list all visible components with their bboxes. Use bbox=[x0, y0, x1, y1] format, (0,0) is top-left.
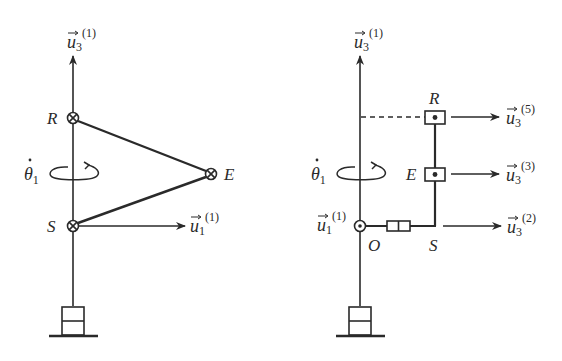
base-icon bbox=[336, 307, 385, 336]
joint-s-icon bbox=[68, 221, 79, 232]
z-axis-label: u3(1) bbox=[67, 26, 96, 54]
x-axis-label: u1(1) bbox=[190, 210, 219, 238]
joint-e-icon bbox=[206, 169, 217, 180]
rotation-arrow-icon bbox=[50, 162, 98, 180]
left-panel bbox=[49, 56, 217, 336]
u3-3-label: u3(3) bbox=[506, 159, 535, 187]
origin-axis-label: u1(1) bbox=[317, 209, 346, 237]
left-labels: u3(1) R E S θ1 u1(1) bbox=[24, 26, 235, 238]
theta-dot-label: θ1 bbox=[24, 164, 39, 187]
right-panel bbox=[336, 56, 501, 336]
rotation-arrow-icon bbox=[337, 162, 385, 180]
theta-dot-label: θ1 bbox=[311, 164, 326, 187]
base-icon bbox=[49, 307, 98, 336]
u3-2-label: u3(2) bbox=[507, 211, 536, 239]
link-r-e bbox=[78, 121, 206, 171]
u3-5-label: u3(5) bbox=[506, 102, 535, 130]
joint-r-label: R bbox=[428, 89, 440, 108]
joint-e-icon bbox=[425, 168, 445, 181]
joint-r-icon bbox=[425, 111, 445, 124]
joint-o-icon bbox=[355, 221, 366, 232]
kinematic-diagram: u3(1) R E S θ1 u1(1) bbox=[0, 0, 562, 361]
joint-e-label: E bbox=[405, 165, 417, 184]
joint-o-label: O bbox=[368, 236, 380, 255]
prismatic-joint-icon bbox=[387, 221, 410, 231]
joint-r-icon bbox=[68, 113, 79, 124]
joint-r-label: R bbox=[46, 109, 58, 128]
joint-s-label: S bbox=[429, 236, 438, 255]
z-axis-label: u3(1) bbox=[354, 26, 383, 54]
link-s-e bbox=[78, 177, 206, 223]
joint-s-label: S bbox=[47, 217, 56, 236]
right-labels: u3(1) R E S O θ1 u1(1) u3(5) u3(3) u3(2) bbox=[311, 26, 536, 255]
joint-e-label: E bbox=[223, 165, 235, 184]
